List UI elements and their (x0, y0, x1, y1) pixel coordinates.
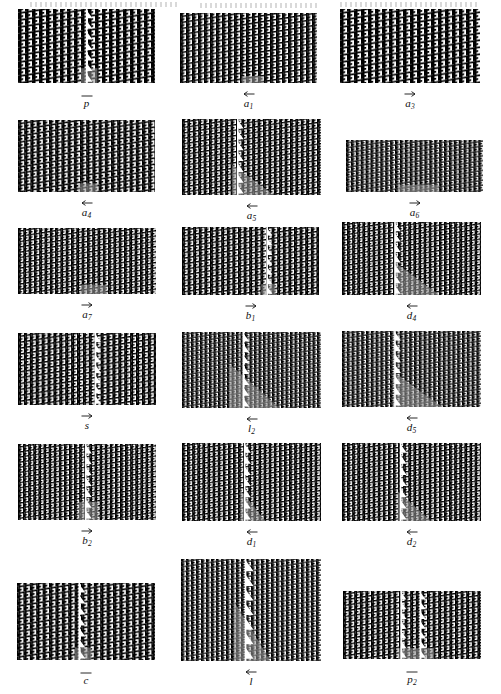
panel-a3-right-accent-icon (404, 90, 417, 97)
panel-s-caption: s (18, 416, 156, 432)
panel-a3-patch (340, 9, 480, 83)
panel-d1: d1 (182, 443, 321, 545)
panel-d2-caption: d2 (342, 532, 481, 549)
panel-a7-patch (18, 228, 156, 294)
panel-l2-patch (182, 332, 321, 408)
panel-b1-subscript: 1 (251, 314, 255, 323)
panel-s-right-accent-icon (81, 412, 94, 419)
panel-a1-caption: a1 (180, 94, 317, 111)
panel-p2-bar: p2 (343, 591, 481, 683)
panel-d1-subscript: 1 (252, 540, 256, 549)
panel-l2: l2 (182, 332, 321, 432)
panel-b1-right-accent-icon (244, 302, 257, 309)
panel-b2-right-accent-icon (81, 527, 94, 534)
panel-d1-caption: d1 (182, 532, 321, 549)
panel-d2: d2 (342, 443, 481, 545)
panel-c-bar: c (17, 583, 155, 684)
panel-p2-bar-symbol: p (407, 673, 413, 685)
panel-b2-subscript: 2 (88, 539, 92, 548)
panel-d5-caption: d5 (342, 418, 481, 435)
panel-a7-caption: a7 (18, 305, 156, 322)
panel-d5: d5 (342, 331, 481, 431)
panel-a1-left-accent-icon (242, 90, 255, 97)
panel-p-bar-symbol: p (84, 97, 90, 109)
panel-p-bar: p (18, 9, 155, 107)
panel-l-patch (181, 559, 321, 661)
panel-d4: d4 (342, 222, 481, 319)
panel-d5-subscript: 5 (412, 426, 416, 435)
panel-p-bar-patch (18, 9, 155, 83)
panel-p-bar-caption: p (18, 94, 155, 110)
panel-a3-symbol: a (405, 97, 411, 109)
panel-a7-symbol: a (82, 308, 88, 320)
panel-l: l (181, 559, 321, 685)
panel-d1-patch (182, 443, 321, 521)
panel-l-left-accent-icon (245, 668, 258, 675)
panel-p2-bar-patch (343, 591, 481, 659)
panel-a5-patch (182, 119, 321, 195)
panel-a4-patch (18, 120, 155, 192)
panel-b1: b1 (182, 227, 319, 319)
panel-b1-patch (182, 227, 319, 295)
panel-c-bar-patch (17, 583, 155, 660)
panel-b2: b2 (18, 444, 156, 544)
panel-p-bar-bar-accent-icon (80, 92, 93, 96)
panel-s-symbol: s (85, 419, 89, 431)
panel-b2-patch (18, 444, 156, 520)
panel-a5: a5 (182, 119, 321, 219)
panel-a5-caption: a5 (182, 206, 321, 223)
panel-a7-subscript: 7 (88, 313, 92, 322)
panel-a3: a3 (340, 9, 480, 107)
panel-a1-patch (180, 13, 317, 83)
panel-a6: a6 (346, 140, 483, 216)
panel-d1-left-accent-icon (245, 528, 258, 535)
panel-d5-patch (342, 331, 481, 407)
panel-b2-caption: b2 (18, 531, 156, 548)
panel-b1-caption: b1 (182, 306, 319, 323)
panel-d4-subscript: 4 (412, 314, 416, 323)
panel-s: s (18, 333, 156, 429)
panel-c-bar-caption: c (17, 671, 155, 687)
panel-a5-subscript: 5 (252, 214, 256, 223)
panel-a1: a1 (180, 13, 317, 107)
panel-l2-caption: l2 (182, 419, 321, 436)
panel-d4-left-accent-icon (405, 302, 418, 309)
panel-c-bar-bar-accent-icon (79, 669, 92, 673)
panel-a6-subscript: 6 (415, 211, 419, 220)
panel-c-bar-symbol: c (84, 674, 89, 686)
panel-a7-right-accent-icon (81, 301, 94, 308)
panel-l-caption: l (181, 672, 321, 688)
panel-a5-left-accent-icon (245, 202, 258, 209)
panel-s-patch (18, 333, 156, 405)
panel-a1-subscript: 1 (249, 102, 253, 111)
panel-p2-bar-caption: p2 (343, 670, 481, 687)
panel-p2-bar-bar-accent-icon (406, 668, 419, 672)
panel-a7: a7 (18, 228, 156, 318)
panel-d2-patch (342, 443, 481, 521)
panel-a4-left-accent-icon (80, 199, 93, 206)
panel-d2-subscript: 2 (412, 540, 416, 549)
panel-d4-patch (342, 222, 481, 295)
panel-l2-subscript: 2 (251, 427, 255, 436)
panel-d5-left-accent-icon (405, 414, 418, 421)
panel-l2-left-accent-icon (245, 415, 258, 422)
panel-a6-patch (346, 140, 483, 192)
panel-a6-right-accent-icon (408, 199, 421, 206)
panel-b2-symbol: b (82, 534, 88, 546)
panel-a3-caption: a3 (340, 94, 480, 111)
panel-a4-subscript: 4 (87, 211, 91, 220)
panel-a4: a4 (18, 120, 155, 216)
panel-a3-subscript: 3 (411, 102, 415, 111)
panel-d2-left-accent-icon (405, 528, 418, 535)
panel-a6-caption: a6 (346, 203, 483, 220)
tiling-figure-grid: pa1a3a4a5a6a7b1d4sl2d5b2d1d2clp2 (0, 0, 501, 694)
panel-a4-caption: a4 (18, 203, 155, 220)
panel-d4-caption: d4 (342, 306, 481, 323)
panel-l-symbol: l (249, 675, 252, 687)
panel-p2-bar-subscript: 2 (413, 678, 417, 687)
